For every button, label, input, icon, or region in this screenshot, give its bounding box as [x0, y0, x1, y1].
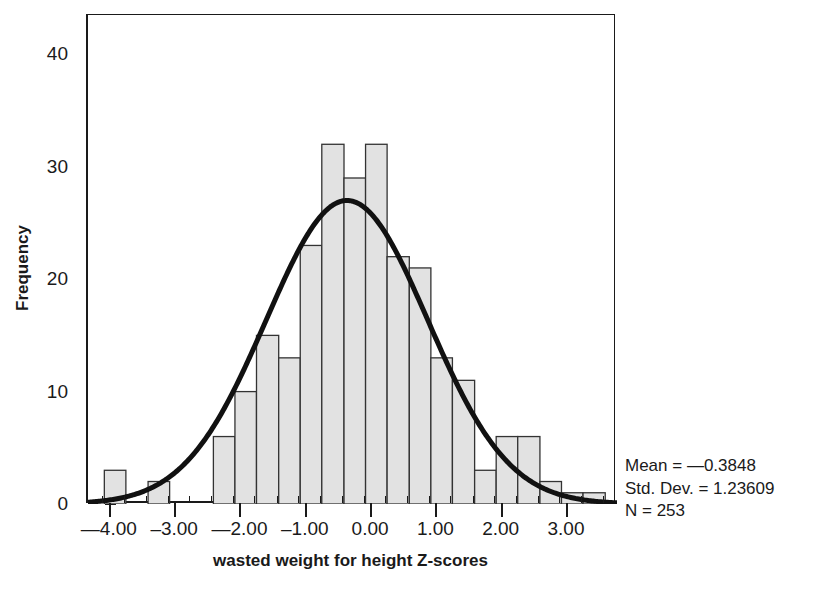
x-tick-label: –1.00	[281, 519, 329, 538]
x-minor-tick	[603, 496, 604, 503]
x-minor-tick	[473, 496, 474, 503]
stat-n: N = 253	[625, 500, 774, 523]
x-tick-label: —2.00	[211, 519, 267, 538]
histogram-bar	[279, 358, 301, 504]
statistics-legend: Mean = —0.3848 Std. Dev. = 1.23609 N = 2…	[625, 455, 774, 523]
x-minor-tick	[364, 496, 365, 503]
x-tick-label: 0.00	[352, 519, 389, 538]
x-tick-label: –3.00	[150, 519, 198, 538]
x-tick-mark	[566, 503, 568, 517]
histogram-bar	[322, 144, 344, 504]
x-minor-tick	[538, 496, 539, 503]
x-minor-tick	[102, 496, 103, 503]
histogram-bar	[475, 470, 497, 504]
x-minor-tick	[233, 496, 234, 503]
y-tick-label: 20	[47, 269, 68, 288]
histogram-bar	[518, 437, 540, 504]
histogram-bars	[104, 144, 605, 504]
x-tick-mark	[305, 503, 307, 517]
stat-std-dev: Std. Dev. = 1.23609	[625, 478, 774, 501]
x-tick-mark	[239, 503, 241, 517]
histogram-bar	[213, 437, 235, 504]
y-tick-label: 40	[47, 44, 68, 63]
plot-area	[86, 14, 615, 503]
x-tick-mark	[109, 503, 111, 517]
histogram-bar	[366, 144, 388, 504]
histogram-bar	[344, 178, 366, 504]
x-tick-mark	[370, 503, 372, 517]
x-minor-tick	[124, 496, 125, 503]
x-minor-tick	[342, 496, 343, 503]
x-minor-tick	[254, 496, 255, 503]
x-tick-label: 1.00	[417, 519, 454, 538]
x-minor-tick	[320, 496, 321, 503]
histogram-bar	[235, 392, 257, 504]
x-minor-tick	[189, 496, 190, 503]
x-tick-mark	[174, 503, 176, 517]
x-minor-tick	[407, 496, 408, 503]
y-tick-label: 0	[57, 494, 68, 513]
y-tick-label: 10	[47, 381, 68, 400]
x-minor-tick	[298, 496, 299, 503]
histogram-bar	[300, 245, 322, 504]
histogram-figure: Frequency 010203040 —4.00–3.00—2.00–1.00…	[0, 0, 821, 597]
x-minor-tick	[494, 496, 495, 503]
x-minor-tick	[211, 496, 212, 503]
x-minor-tick	[581, 496, 582, 503]
x-minor-tick	[146, 496, 147, 503]
x-axis-title: wasted weight for height Z-scores	[86, 551, 615, 571]
y-axis-tick-labels: 010203040	[30, 0, 68, 597]
histogram-bar	[257, 335, 279, 504]
histogram-plot-svg	[88, 15, 617, 504]
x-tick-label: 3.00	[548, 519, 585, 538]
histogram-bar	[387, 257, 409, 504]
x-minor-tick	[385, 496, 386, 503]
x-minor-tick	[429, 496, 430, 503]
y-tick-label: 30	[47, 156, 68, 175]
x-tick-label: 2.00	[482, 519, 519, 538]
x-minor-tick	[277, 496, 278, 503]
stat-mean: Mean = —0.3848	[625, 455, 774, 478]
x-minor-tick	[559, 496, 560, 503]
x-tick-mark	[501, 503, 503, 517]
x-minor-tick	[516, 496, 517, 503]
x-minor-tick	[168, 496, 169, 503]
histogram-bar	[431, 358, 453, 504]
x-tick-mark	[435, 503, 437, 517]
x-minor-tick	[450, 496, 451, 503]
x-tick-label: —4.00	[81, 519, 137, 538]
